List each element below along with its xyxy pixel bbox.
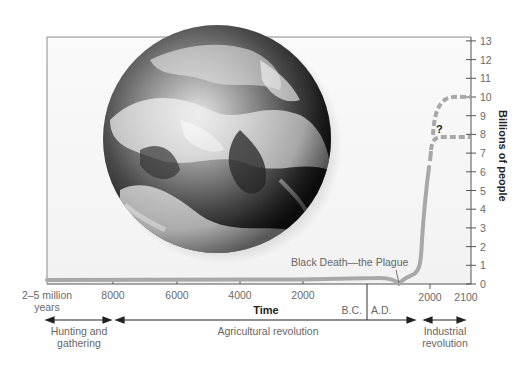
x-tick-2000ad: 2000	[418, 291, 442, 303]
y-tick-6: 6	[480, 166, 486, 178]
x-tick-4000: 4000	[228, 289, 252, 301]
ad-label: A.D.	[371, 304, 391, 316]
x-axis-title: Time	[253, 304, 278, 316]
population-chart: 0 1 2 3 4 5 6 7 8 9 10 11 12 13 Billions…	[0, 0, 517, 372]
y-tick-13: 13	[480, 35, 492, 47]
y-tick-1: 1	[480, 259, 486, 271]
era-agricultural-label: Agricultural revolution	[218, 325, 319, 337]
x-tick-first-line2: years	[34, 301, 60, 313]
y-tick-7: 7	[480, 147, 486, 159]
y-tick-4: 4	[480, 203, 486, 215]
y-tick-2: 2	[480, 241, 486, 253]
y-tick-5: 5	[480, 185, 486, 197]
y-tick-9: 9	[480, 110, 486, 122]
y-tick-12: 12	[480, 54, 492, 66]
y-tick-8: 8	[480, 128, 486, 140]
plague-label: Black Death—the Plague	[291, 256, 408, 268]
y-axis: 0 1 2 3 4 5 6 7 8 9 10 11 12 13 Billions…	[466, 35, 509, 290]
y-axis-title: Billions of people	[497, 110, 509, 202]
y-tick-0: 0	[480, 278, 486, 290]
x-tick-6000: 6000	[165, 289, 189, 301]
bc-label: B.C.	[342, 304, 362, 316]
x-tick-2000bc: 2000	[291, 289, 315, 301]
x-axis: 2–5 million years 8000 6000 4000 2000 20…	[22, 279, 478, 320]
y-tick-3: 3	[480, 222, 486, 234]
era-industrial-label-2: revolution	[422, 337, 468, 349]
x-tick-first-line1: 2–5 million	[22, 289, 72, 301]
y-tick-labels: 0 1 2 3 4 5 6 7 8 9 10 11 12 13	[480, 35, 492, 290]
x-tick-2100: 2100	[454, 291, 478, 303]
era-industrial-label-1: Industrial	[424, 325, 467, 337]
y-tick-10: 10	[480, 91, 492, 103]
era-arrows	[46, 317, 465, 323]
era-hunting-label-2: gathering	[57, 337, 101, 349]
x-tick-8000: 8000	[101, 289, 125, 301]
uncertainty-mark: ?	[436, 123, 443, 135]
era-hunting-label-1: Hunting and	[51, 325, 108, 337]
y-tick-11: 11	[480, 72, 491, 84]
